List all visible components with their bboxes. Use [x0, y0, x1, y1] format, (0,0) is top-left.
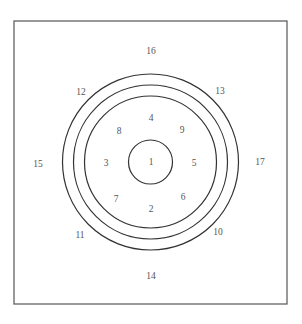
zone-label-3: 3 [104, 158, 109, 168]
zone-label-8: 8 [117, 126, 122, 136]
zone-label-1: 1 [149, 157, 154, 167]
zone-label-16: 16 [146, 46, 156, 56]
zone-label-7: 7 [114, 194, 119, 204]
zone-label-14: 14 [146, 271, 156, 281]
zone-label-10: 10 [213, 227, 223, 237]
zone-label-12: 12 [76, 87, 86, 97]
zone-label-11: 11 [75, 230, 84, 240]
zone-label-13: 13 [215, 86, 225, 96]
zone-labels: 1234567891011121314151617 [33, 46, 265, 281]
zone-label-6: 6 [181, 192, 186, 202]
zone-label-9: 9 [180, 125, 185, 135]
concentric-zone-diagram: 1234567891011121314151617 [0, 0, 302, 324]
zone-label-5: 5 [192, 158, 197, 168]
zone-label-17: 17 [255, 157, 265, 167]
zone-label-15: 15 [33, 159, 43, 169]
zone-label-4: 4 [149, 113, 154, 123]
zone-label-2: 2 [149, 204, 154, 214]
